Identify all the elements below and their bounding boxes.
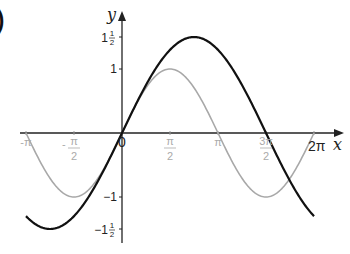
svg-text:-π: -π — [20, 136, 32, 148]
x-tick-label: π — [214, 136, 222, 148]
svg-text:2: 2 — [110, 230, 115, 239]
svg-text:0: 0 — [118, 134, 126, 150]
x-tick-label: -π — [20, 136, 32, 148]
svg-text:π: π — [214, 136, 222, 148]
function-plot: ) xy-π-π20π2π3π22π1121−1−112 — [0, 0, 350, 254]
svg-text:1: 1 — [110, 29, 115, 38]
y-tick-label: 112 — [101, 29, 115, 47]
svg-text:2π: 2π — [308, 138, 326, 154]
svg-text:π: π — [70, 135, 78, 147]
axes — [20, 11, 344, 243]
y-axis-arrow-icon — [118, 11, 126, 21]
x-tick-label: -π2 — [62, 135, 80, 162]
svg-text:3π: 3π — [259, 135, 273, 147]
svg-text:1: 1 — [101, 31, 108, 45]
svg-text:1: 1 — [110, 62, 117, 76]
svg-text:1: 1 — [110, 221, 115, 230]
svg-text:π: π — [166, 135, 174, 147]
x-tick-label: 0 — [118, 134, 126, 150]
x-tick-label: π2 — [164, 135, 176, 162]
svg-text:2: 2 — [71, 150, 77, 162]
svg-text:−1: −1 — [94, 223, 108, 237]
y-tick-label: −1 — [103, 190, 117, 204]
y-tick-label: 1 — [110, 62, 117, 76]
x-tick-label: 3π2 — [259, 135, 273, 162]
x-axis-label: x — [333, 135, 342, 154]
svg-text:-: - — [62, 138, 66, 150]
y-tick-label: −112 — [94, 221, 115, 239]
svg-text:−1: −1 — [103, 190, 117, 204]
y-axis-label: y — [106, 5, 117, 24]
panel-marker: ) — [0, 0, 5, 37]
svg-text:2: 2 — [110, 38, 115, 47]
x-tick-label: 2π — [308, 138, 326, 154]
svg-text:2: 2 — [167, 150, 173, 162]
svg-text:2: 2 — [263, 150, 269, 162]
